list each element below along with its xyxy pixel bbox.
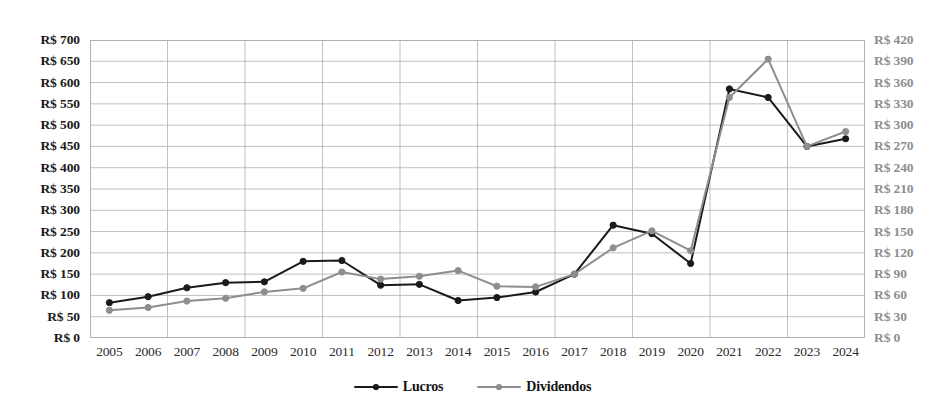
chart-container: R$ 0R$ 50R$ 100R$ 150R$ 200R$ 250R$ 300R… [0,0,945,419]
y-axis-right-tick-label: R$ 210 [874,182,914,196]
y-axis-left-tick-label: R$ 50 [47,310,80,324]
y-axis-left-tick-label: R$ 400 [40,161,80,175]
y-axis-right-tick-label: R$ 180 [874,203,914,217]
legend-marker-icon [354,381,398,393]
y-axis-left-tick-label: R$ 0 [54,331,80,345]
x-axis-tick-label: 2023 [794,344,820,360]
y-axis-right-tick-label: R$ 390 [874,54,914,68]
legend-label: Dividendos [526,379,591,395]
y-axis-right-tick-label: R$ 0 [874,331,900,345]
y-axis-right-tick-label: R$ 150 [874,225,914,239]
x-axis-tick-label: 2009 [251,344,277,360]
x-axis-tick-label: 2013 [406,344,432,360]
y-axis-right-tick-label: R$ 120 [874,246,914,260]
x-axis-tick-label: 2012 [368,344,394,360]
legend-item-dividendos[interactable]: Dividendos [477,379,591,395]
y-axis-left-tick-label: R$ 250 [40,225,80,239]
x-axis-tick-label: 2008 [213,344,239,360]
x-axis-tick-label: 2006 [135,344,161,360]
legend-label: Lucros [403,379,444,395]
x-axis-tick-label: 2005 [96,344,122,360]
x-axis: 2005200620072008200920102011201220132014… [90,341,865,365]
y-axis-left-tick-label: R$ 550 [40,97,80,111]
y-axis-right-tick-label: R$ 60 [874,288,907,302]
x-axis-tick-label: 2010 [290,344,316,360]
y-axis-right-tick-label: R$ 330 [874,97,914,111]
y-axis-left-tick-label: R$ 350 [40,182,80,196]
y-axis-left-tick-label: R$ 450 [40,139,80,153]
gridlines [90,40,865,338]
y-axis-right-tick-label: R$ 270 [874,139,914,153]
x-axis-tick-label: 2019 [639,344,665,360]
y-axis-left-tick-label: R$ 300 [40,203,80,217]
y-axis-left-tick-label: R$ 500 [40,118,80,132]
y-axis-right-tick-label: R$ 90 [874,267,907,281]
y-axis-left-tick-label: R$ 200 [40,246,80,260]
x-axis-tick-label: 2016 [523,344,549,360]
y-axis-right-tick-label: R$ 240 [874,161,914,175]
x-axis-tick-label: 2024 [833,344,859,360]
x-axis-tick-label: 2018 [600,344,626,360]
y-axis-left-tick-label: R$ 600 [40,76,80,90]
x-axis-tick-label: 2015 [484,344,510,360]
x-axis-tick-label: 2011 [329,344,355,360]
y-axis-right-tick-label: R$ 300 [874,118,914,132]
y-axis-left-tick-label: R$ 150 [40,267,80,281]
y-axis-right-tick-label: R$ 360 [874,76,914,90]
x-axis-tick-label: 2022 [755,344,781,360]
line-chart-svg [90,40,865,338]
legend-marker-icon [477,381,521,393]
plot-area [90,40,865,338]
y-axis-left-tick-label: R$ 700 [40,33,80,47]
x-axis-tick-label: 2021 [716,344,742,360]
chart-legend: LucrosDividendos [0,372,945,402]
y-axis-right: R$ 0R$ 30R$ 60R$ 90R$ 120R$ 150R$ 180R$ … [866,0,945,419]
x-axis-tick-label: 2020 [678,344,704,360]
x-axis-tick-label: 2017 [561,344,587,360]
y-axis-right-tick-label: R$ 420 [874,33,914,47]
x-axis-tick-label: 2014 [445,344,471,360]
x-axis-tick-label: 2007 [174,344,200,360]
legend-item-lucros[interactable]: Lucros [354,379,444,395]
y-axis-left: R$ 0R$ 50R$ 100R$ 150R$ 200R$ 250R$ 300R… [2,0,80,419]
y-axis-right-tick-label: R$ 30 [874,310,907,324]
y-axis-left-tick-label: R$ 100 [40,288,80,302]
y-axis-left-tick-label: R$ 650 [40,54,80,68]
